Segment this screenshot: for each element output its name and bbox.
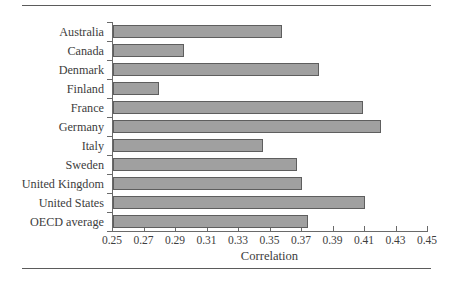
category-label: Italy (0, 139, 104, 153)
category-label: Australia (0, 25, 104, 39)
y-axis-tick (107, 174, 113, 175)
bar (113, 158, 297, 171)
y-axis-tick (107, 98, 113, 99)
y-axis-tick (107, 117, 113, 118)
bar (113, 177, 302, 190)
category-label: Canada (0, 44, 104, 58)
x-axis-tick (427, 226, 428, 232)
bar (113, 63, 319, 76)
y-axis-tick (107, 212, 113, 213)
bar-chart-plot: 0.250.270.290.310.330.350.370.390.410.43… (0, 0, 451, 281)
bar (113, 196, 365, 209)
y-axis-tick (107, 193, 113, 194)
bar (113, 215, 308, 228)
y-axis-tick (107, 155, 113, 156)
category-label: United Kingdom (0, 177, 104, 191)
category-label: OECD average (0, 215, 104, 229)
figure: 0.250.270.290.310.330.350.370.390.410.43… (0, 0, 451, 281)
x-axis-tick (396, 226, 397, 232)
x-axis-tick (333, 226, 334, 232)
x-axis-tick-label: 0.45 (407, 234, 447, 247)
y-axis-tick (107, 41, 113, 42)
category-label: Germany (0, 120, 104, 134)
x-axis-title: Correlation (112, 249, 427, 264)
bar (113, 120, 381, 133)
y-axis-tick (107, 60, 113, 61)
y-axis-tick (107, 22, 113, 23)
category-label: United States (0, 196, 104, 210)
y-axis-tick (107, 231, 113, 232)
bar (113, 139, 263, 152)
bar (113, 101, 363, 114)
x-axis-tick (364, 226, 365, 232)
bar (113, 25, 282, 38)
bar (113, 44, 184, 57)
category-label: Finland (0, 82, 104, 96)
category-label: Sweden (0, 158, 104, 172)
category-label: France (0, 101, 104, 115)
category-label: Denmark (0, 63, 104, 77)
y-axis-tick (107, 79, 113, 80)
bar (113, 82, 159, 95)
y-axis-tick (107, 136, 113, 137)
